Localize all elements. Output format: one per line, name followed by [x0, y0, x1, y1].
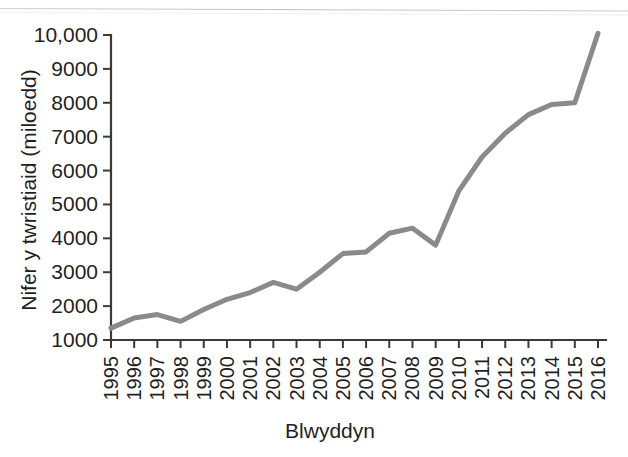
x-axis-tick-labels: 1995199619971998199920002001200220032004… [100, 356, 609, 401]
series-line [111, 33, 598, 328]
data-series [111, 33, 598, 328]
x-tick-label: 2010 [448, 356, 470, 401]
x-tick-label: 2001 [239, 356, 261, 401]
x-tick-label: 2008 [401, 356, 423, 401]
axis-spines [111, 35, 606, 340]
x-tick-label: 2014 [541, 356, 563, 401]
x-tick-label: 2016 [587, 356, 609, 401]
y-tick-label: 9000 [51, 57, 98, 80]
x-tick-label: 2013 [517, 356, 539, 401]
x-tick-label: 2005 [332, 356, 354, 401]
chart-axes [103, 35, 606, 348]
x-tick-label: 1999 [193, 356, 215, 401]
y-tick-label: 3000 [51, 260, 98, 283]
y-tick-label: 7000 [51, 125, 98, 148]
y-tick-label: 10,000 [34, 23, 98, 46]
x-tick-label: 2006 [355, 356, 377, 401]
x-tick-label: 2011 [471, 356, 493, 399]
x-tick-label: 1996 [123, 356, 145, 401]
x-tick-label: 2015 [564, 356, 586, 401]
x-tick-label: 2003 [286, 356, 308, 401]
y-axis-title: Nifer y twristiaid (miloedd) [17, 69, 40, 311]
y-tick-label: 5000 [51, 192, 98, 215]
y-tick-label: 6000 [51, 159, 98, 182]
y-tick-label: 4000 [51, 226, 98, 249]
y-tick-label: 8000 [51, 91, 98, 114]
x-tick-label: 2000 [216, 356, 238, 401]
x-tick-label: 2002 [262, 356, 284, 401]
x-tick-label: 2007 [378, 356, 400, 401]
x-axis-title: Blwyddyn [285, 419, 375, 442]
line-chart-svg: 10002000300040005000600070008000900010,0… [0, 0, 628, 457]
x-tick-label: 1997 [146, 356, 168, 401]
y-tick-label: 2000 [51, 294, 98, 317]
x-tick-label: 2004 [309, 356, 331, 401]
y-axis-tick-labels: 10002000300040005000600070008000900010,0… [34, 23, 98, 351]
chart-figure: 10002000300040005000600070008000900010,0… [0, 0, 628, 457]
x-tick-label: 1998 [170, 356, 192, 401]
y-tick-label: 1000 [51, 328, 98, 351]
x-tick-label: 2009 [425, 356, 447, 401]
x-tick-label: 1995 [100, 356, 122, 401]
x-tick-label: 2012 [494, 356, 516, 401]
